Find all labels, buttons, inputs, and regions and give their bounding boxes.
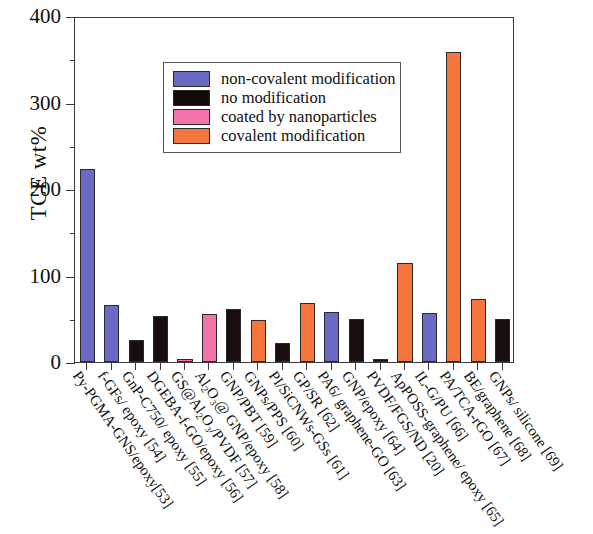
chart-legend: non-covalent modificationno modification… bbox=[163, 62, 401, 153]
bar bbox=[251, 320, 266, 362]
bar-chart-figure: TCE wt% 4003002001000 non-covalent modif… bbox=[0, 0, 593, 534]
x-tick bbox=[331, 363, 332, 370]
x-tick bbox=[502, 363, 503, 370]
legend-swatch bbox=[173, 71, 210, 87]
legend-item: non-covalent modification bbox=[173, 69, 391, 88]
bar bbox=[129, 340, 144, 362]
x-tick bbox=[306, 363, 307, 370]
y-tick-label: 300 bbox=[1, 93, 61, 114]
x-tick bbox=[428, 363, 429, 370]
bar bbox=[324, 312, 339, 362]
bar bbox=[349, 319, 364, 362]
y-tick-label: 100 bbox=[1, 266, 61, 287]
bar bbox=[177, 359, 192, 362]
bar bbox=[397, 263, 412, 362]
legend-item: no modification bbox=[173, 88, 391, 107]
legend-item: covalent modification bbox=[173, 126, 391, 145]
x-tick bbox=[282, 363, 283, 370]
bar bbox=[471, 299, 486, 362]
legend-label: coated by nanoparticles bbox=[221, 107, 377, 127]
legend-label: non-covalent modification bbox=[221, 69, 396, 89]
legend-swatch bbox=[173, 109, 210, 125]
x-tick bbox=[111, 363, 112, 370]
legend-item: coated by nanoparticles bbox=[173, 107, 391, 126]
y-tick-label: 0 bbox=[1, 352, 61, 373]
x-tick bbox=[477, 363, 478, 370]
y-axis-label: TCE wt% bbox=[26, 93, 52, 253]
bar bbox=[202, 314, 217, 362]
bar bbox=[446, 52, 461, 362]
x-tick bbox=[355, 363, 356, 370]
legend-label: covalent modification bbox=[221, 126, 365, 146]
x-tick bbox=[404, 363, 405, 370]
x-tick bbox=[184, 363, 185, 370]
bar bbox=[422, 313, 437, 362]
x-tick bbox=[160, 363, 161, 370]
x-tick bbox=[233, 363, 234, 370]
bar bbox=[104, 305, 119, 362]
bar bbox=[80, 169, 95, 362]
bar bbox=[226, 309, 241, 362]
x-tick bbox=[453, 363, 454, 370]
bar bbox=[300, 303, 315, 362]
bar bbox=[373, 359, 388, 362]
y-tick-label: 400 bbox=[1, 6, 61, 27]
x-tick bbox=[208, 363, 209, 370]
legend-label: no modification bbox=[221, 88, 326, 108]
bar bbox=[275, 343, 290, 362]
y-tick-label: 200 bbox=[1, 179, 61, 200]
legend-swatch bbox=[173, 128, 210, 144]
x-tick bbox=[86, 363, 87, 370]
legend-swatch bbox=[173, 90, 210, 106]
x-tick bbox=[380, 363, 381, 370]
x-tick bbox=[135, 363, 136, 370]
bar bbox=[495, 319, 510, 362]
y-tick-major bbox=[66, 363, 75, 364]
x-tick bbox=[257, 363, 258, 370]
bar bbox=[153, 316, 168, 362]
